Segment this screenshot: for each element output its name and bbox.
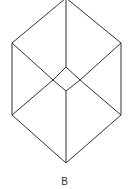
connector-right-top [80,43,121,80]
diagram-label: B [0,176,129,187]
inner-diamond [53,67,80,91]
connector-left-top [12,43,53,80]
connector-right-bottom [80,80,121,115]
connector-left-bottom [12,80,53,115]
cube-diagram [0,0,129,189]
